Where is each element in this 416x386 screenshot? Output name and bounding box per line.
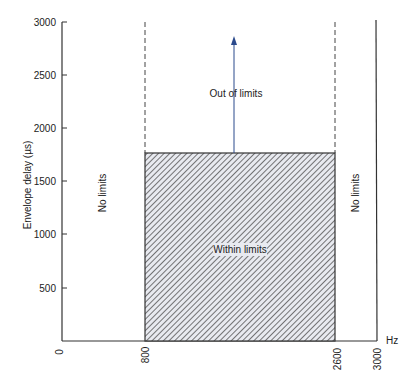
out-of-limits-label: Out of limits bbox=[210, 88, 263, 99]
y-tick-2500: 2500 bbox=[34, 70, 57, 81]
y-axis-label: Envelope delay (µs) bbox=[22, 141, 33, 230]
x-tick-800: 800 bbox=[140, 346, 151, 363]
arrow-head-icon bbox=[231, 36, 237, 45]
y-tick-3000: 3000 bbox=[34, 17, 57, 28]
no-limits-left-label: No limits bbox=[97, 174, 108, 212]
x-tick-3000: 3000 bbox=[372, 347, 383, 370]
no-limits-right-label: No limits bbox=[350, 174, 361, 212]
y-tick-1500: 1500 bbox=[34, 176, 57, 187]
y-tick-500: 500 bbox=[39, 283, 56, 294]
envelope-delay-diagram: 3000 2500 2000 1500 1000 500 Envelope de… bbox=[0, 0, 416, 386]
boundary-3000 bbox=[376, 20, 377, 341]
y-tick-2000: 2000 bbox=[34, 123, 57, 134]
y-tick-1000: 1000 bbox=[34, 229, 57, 240]
x-unit-label: Hz bbox=[386, 335, 398, 346]
x-tick-0: 0 bbox=[54, 349, 65, 355]
x-tick-2600: 2600 bbox=[332, 347, 343, 370]
within-limits-label: Within limits bbox=[213, 244, 266, 255]
